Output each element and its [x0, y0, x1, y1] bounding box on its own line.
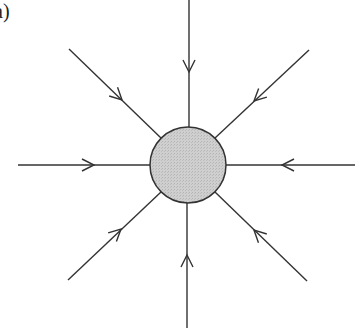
arrow-bottom-right: [215, 192, 307, 281]
arrow-left: [18, 159, 150, 171]
arrow-top-left: [69, 49, 161, 138]
arrow-bottom: [181, 203, 193, 328]
central-circle: [150, 127, 226, 203]
arrow-line: [69, 49, 161, 138]
arrow-top: [183, 0, 195, 127]
arrow-bottom-left: [68, 192, 161, 280]
arrow-line: [68, 192, 161, 280]
arrow-line: [215, 192, 307, 281]
arrow-top-right: [215, 50, 309, 138]
arrow-right: [226, 159, 355, 171]
arrow-line: [215, 50, 309, 138]
radial-inflow-diagram: [0, 0, 355, 328]
